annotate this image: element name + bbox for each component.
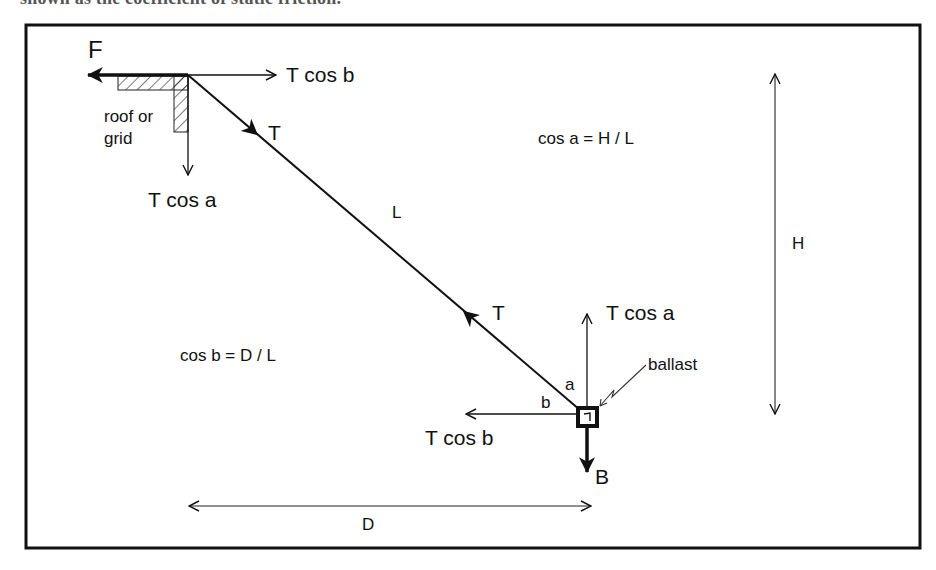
t-cos-b-top-label: T cos b: [286, 63, 354, 86]
angle-a-label: a: [565, 375, 575, 394]
force-f-label: F: [88, 36, 103, 63]
ballast-label: ballast: [648, 355, 697, 374]
tension-top-arrow: [200, 85, 252, 130]
equation-cos-b: cos b = D / L: [180, 346, 276, 365]
tension-top-label: T: [268, 121, 281, 144]
equation-cos-a: cos a = H / L: [538, 129, 634, 148]
t-cos-a-top-label: T cos a: [148, 188, 217, 211]
force-b-label: B: [595, 465, 609, 488]
rope-length-label: L: [392, 203, 401, 222]
tension-bottom-label: T: [492, 301, 505, 324]
t-cos-b-bottom-label: T cos b: [425, 426, 493, 449]
figure-frame: [26, 25, 920, 548]
angle-b-label: b: [541, 393, 550, 412]
t-cos-a-bottom-label: T cos a: [606, 301, 675, 324]
roof-label-line2: grid: [104, 129, 132, 148]
ballast-leader-line: [600, 365, 646, 406]
height-label: H: [792, 234, 804, 253]
distance-label: D: [362, 515, 374, 534]
roof-label-line1: roof or: [104, 107, 153, 126]
ballast-box: [578, 408, 597, 426]
rigging-force-diagram: F T cos b T cos a roof or grid T T L cos…: [0, 0, 936, 570]
